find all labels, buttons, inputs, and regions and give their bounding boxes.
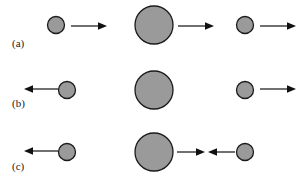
row-c-large-ball-center <box>135 133 173 171</box>
row-label-b: (b) <box>12 97 25 110</box>
row-b-small-ball-right <box>237 82 254 99</box>
row-a-large-ball-center <box>135 6 173 44</box>
physics-collision-figure: (a) (b) (c) <box>0 0 305 179</box>
row-c-small-ball-left <box>59 144 76 161</box>
row-b-small-ball-left <box>59 82 76 99</box>
row-a-small-ball-right <box>237 17 254 34</box>
row-label-a: (a) <box>12 37 25 50</box>
row-a-small-ball-left <box>48 17 65 34</box>
row-c-small-ball-right <box>237 144 254 161</box>
row-b-large-ball-center <box>135 71 173 109</box>
row-label-c: (c) <box>12 160 25 173</box>
